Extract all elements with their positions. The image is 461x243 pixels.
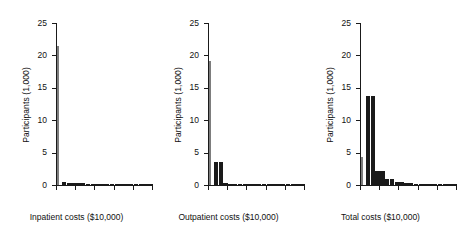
x-axis-line <box>208 185 305 186</box>
histogram-bar <box>404 183 408 185</box>
histogram-bar <box>76 183 80 185</box>
y-tick: 5 <box>52 153 56 154</box>
x-tick: 0 <box>360 186 361 190</box>
x-tick: 3 <box>114 186 115 190</box>
histogram-bar <box>223 183 227 185</box>
histogram-bar <box>119 184 123 185</box>
histogram-bar <box>247 184 251 185</box>
y-axis-title: Participants (1,000) <box>173 35 183 175</box>
y-axis-title: Participants (1,000) <box>21 35 31 175</box>
histogram-bar <box>252 184 256 185</box>
y-tick: 15 <box>52 88 56 89</box>
x-axis-line <box>56 185 153 186</box>
histogram-bar <box>262 184 266 185</box>
histogram-bar <box>143 184 147 185</box>
histogram-bar <box>67 183 71 185</box>
y-tick: 25 <box>52 23 56 24</box>
y-tick-label: 15 <box>38 82 47 92</box>
histogram-bar <box>271 184 275 185</box>
histogram-bar <box>243 184 247 185</box>
panel-total-costs: Participants (1,000) 0510152025 012345 T… <box>304 0 457 243</box>
histogram-bar <box>291 184 295 185</box>
histogram-bar <box>419 184 423 185</box>
histogram-bar <box>257 184 261 185</box>
x-tick: 1 <box>379 186 380 190</box>
x-tick: 2 <box>398 186 399 190</box>
y-tick-label: 20 <box>38 50 47 60</box>
histogram-bar <box>209 61 211 185</box>
y-tick: 20 <box>52 55 56 56</box>
y-tick-label: 15 <box>342 82 351 92</box>
plot-area-total: 0510152025 012345 <box>360 23 456 185</box>
histogram-bar <box>124 184 128 185</box>
y-axis-title: Participants (1,000) <box>325 35 335 175</box>
x-tick: 5 <box>456 186 457 190</box>
histogram-bar <box>267 184 271 185</box>
histogram-bar <box>238 184 242 185</box>
y-tick-label: 0 <box>42 180 47 190</box>
histogram-bar <box>390 179 394 185</box>
y-tick: 20 <box>356 55 360 56</box>
y-tick: 15 <box>204 88 208 89</box>
x-axis-line <box>360 185 457 186</box>
histogram-bar <box>71 183 75 185</box>
histogram-bar <box>423 184 427 185</box>
x-tick: 3 <box>418 186 419 190</box>
y-tick-label: 25 <box>342 18 351 28</box>
histogram-bar <box>286 184 290 185</box>
panel-outpatient-costs: Participants (1,000) 0510152025 012345 O… <box>152 0 305 243</box>
x-tick: 2 <box>246 186 247 190</box>
x-axis-title: Outpatient costs ($10,000) <box>152 212 305 222</box>
x-axis-title: Inpatient costs ($10,000) <box>0 212 153 222</box>
plot-area-outpatient: 0510152025 012345 <box>208 23 304 185</box>
histogram-bar <box>452 184 456 185</box>
y-tick-label: 15 <box>190 82 199 92</box>
histogram-figure: Participants (1,000) 0510152025 012345 I… <box>0 0 461 243</box>
histogram-bar <box>228 184 232 185</box>
histogram-bar <box>95 184 99 185</box>
histogram-bar <box>105 184 109 185</box>
histogram-bar <box>295 184 299 185</box>
histogram-bar <box>371 96 375 185</box>
histogram-bar <box>443 184 447 185</box>
histogram-bar <box>428 184 432 185</box>
histogram-bar <box>414 184 418 185</box>
histogram-bar <box>86 184 90 185</box>
y-tick: 20 <box>204 55 208 56</box>
y-tick-label: 25 <box>190 18 199 28</box>
histogram-bar <box>366 96 370 185</box>
x-tick: 1 <box>227 186 228 190</box>
x-tick: 1 <box>75 186 76 190</box>
histogram-bar <box>219 162 223 185</box>
y-tick: 10 <box>356 120 360 121</box>
histogram-bar <box>81 183 85 185</box>
y-tick: 10 <box>52 120 56 121</box>
histogram-bar <box>129 184 133 185</box>
histogram-bar <box>214 162 218 185</box>
y-tick-label: 20 <box>190 50 199 60</box>
histogram-bar <box>447 184 451 185</box>
panel-inpatient-costs: Participants (1,000) 0510152025 012345 I… <box>0 0 153 243</box>
histogram-bar <box>91 184 95 185</box>
y-tick-label: 0 <box>194 180 199 190</box>
y-tick-label: 5 <box>42 147 47 157</box>
histogram-bar <box>100 184 104 185</box>
y-tick-label: 0 <box>346 180 351 190</box>
x-tick: 0 <box>208 186 209 190</box>
histogram-bar <box>276 184 280 185</box>
histogram-bar <box>375 171 379 185</box>
x-axis-title: Total costs ($10,000) <box>304 212 457 222</box>
y-tick: 10 <box>204 120 208 121</box>
x-tick: 0 <box>56 186 57 190</box>
y-tick: 25 <box>204 23 208 24</box>
y-tick-label: 20 <box>342 50 351 60</box>
x-tick: 4 <box>133 186 134 190</box>
histogram-bar <box>433 184 437 185</box>
histogram-bar <box>57 46 59 185</box>
histogram-bar <box>134 184 138 185</box>
histogram-bar <box>281 184 285 185</box>
y-tick-label: 5 <box>194 147 199 157</box>
x-tick: 4 <box>285 186 286 190</box>
histogram-bar <box>115 184 119 185</box>
y-tick: 15 <box>356 88 360 89</box>
